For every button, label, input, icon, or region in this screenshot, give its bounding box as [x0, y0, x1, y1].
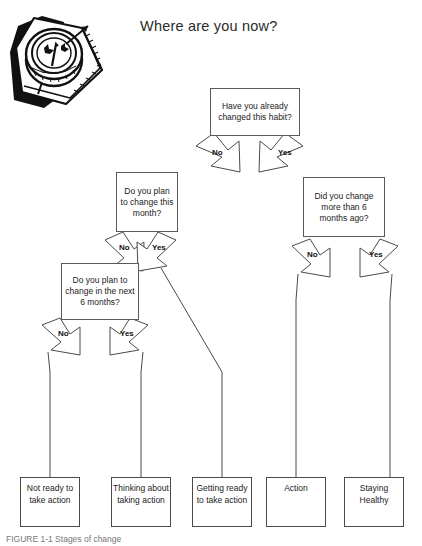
outcome-box-thinking: Thinking about taking action	[111, 477, 171, 527]
line-to-not-ready	[48, 352, 50, 477]
outcome-text: Not ready to take action	[21, 483, 79, 506]
outcome-box-getting-ready: Getting ready to take action	[192, 477, 252, 527]
decision-text: Do you plan to change in the next 6 mont…	[65, 275, 135, 308]
edge-label-q3-no: No	[58, 329, 69, 338]
flowchart-page: Where are you now?	[0, 0, 422, 546]
decision-text: Do you plan to change this month?	[120, 186, 174, 219]
outcome-text: Action	[267, 483, 325, 495]
line-to-getting-ready	[161, 268, 222, 477]
edge-label-q2-no: No	[119, 243, 130, 252]
outcome-box-action: Action	[266, 477, 326, 527]
line-to-thinking	[141, 352, 143, 477]
decision-box-changed-more-than-6-months: Did you change more than 6 months ago?	[303, 177, 385, 237]
line-to-staying-healthy	[390, 274, 392, 477]
edge-label-q4-yes: Yes	[369, 250, 383, 259]
decision-text: Did you change more than 6 months ago?	[307, 191, 381, 224]
compass-on-map-illustration	[4, 8, 116, 112]
outcome-box-staying-healthy: Staying Healthy	[344, 477, 404, 527]
figure-caption: FIGURE 1-1 Stages of change	[6, 534, 121, 544]
line-to-action	[296, 274, 298, 477]
decision-box-change-this-month: Do you plan to change this month?	[116, 172, 178, 232]
outcome-box-not-ready: Not ready to take action	[20, 477, 80, 527]
outcome-text: Thinking about taking action	[112, 483, 170, 506]
edge-label-q1-yes: Yes	[278, 148, 292, 157]
decision-box-already-changed: Have you already changed this habit?	[210, 88, 300, 136]
outcome-text: Staying Healthy	[345, 483, 403, 506]
edge-label-q2-yes: Yes	[152, 243, 166, 252]
edge-label-q3-yes: Yes	[120, 329, 134, 338]
edge-label-q4-no: No	[307, 250, 318, 259]
decision-box-change-next-6-months: Do you plan to change in the next 6 mont…	[61, 263, 139, 320]
outcome-text: Getting ready to take action	[193, 483, 251, 506]
page-title: Where are you now?	[140, 18, 277, 34]
decision-text: Have you already changed this habit?	[214, 101, 296, 123]
edge-label-q1-no: No	[212, 148, 223, 157]
